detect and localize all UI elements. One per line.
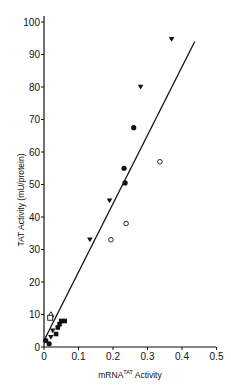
y-tick-label: 60 xyxy=(29,147,41,158)
data-point-open-circle xyxy=(109,237,114,242)
regression-line xyxy=(44,42,195,341)
data-point-filled-circle xyxy=(131,125,136,130)
y-ticks: 0102030405060708090100 xyxy=(23,17,44,353)
x-ticks: 00.10.20.30.40.5 xyxy=(41,347,224,362)
y-axis-title: TAT Activity (mU/protein) xyxy=(16,153,26,246)
y-tick-label: 0 xyxy=(34,342,40,353)
data-point-filled-triangle xyxy=(169,37,175,42)
data-point-filled-circle xyxy=(121,166,126,171)
x-tick-label: 0.4 xyxy=(175,351,189,362)
data-point-filled-triangle xyxy=(48,335,54,340)
x-axis-title: mRNATAT Activity xyxy=(98,369,162,380)
data-point-filled-triangle xyxy=(87,238,93,243)
data-point-filled-square xyxy=(54,332,59,337)
data-point-filled-square xyxy=(62,319,67,324)
y-tick-label: 80 xyxy=(29,82,41,93)
scatter-chart: 0102030405060708090100 00.10.20.30.40.5 … xyxy=(0,0,231,388)
y-tick-label: 50 xyxy=(29,179,41,190)
data-point-filled-triangle xyxy=(107,199,113,204)
data-point-open-square xyxy=(48,315,53,320)
data-point-filled-circle xyxy=(47,341,52,346)
y-tick-label: 90 xyxy=(29,49,41,60)
data-point-open-circle xyxy=(124,221,129,226)
data-point-open-circle xyxy=(158,159,163,164)
y-tick-label: 10 xyxy=(29,309,41,320)
data-point-filled-circle xyxy=(122,180,127,185)
x-tick-label: 0.5 xyxy=(210,351,224,362)
data-points xyxy=(43,37,174,346)
data-point-filled-triangle xyxy=(138,85,144,90)
y-tick-label: 70 xyxy=(29,114,41,125)
data-point-filled-square xyxy=(56,325,61,330)
x-tick-label: 0.1 xyxy=(72,351,86,362)
x-tick-label: 0.2 xyxy=(106,351,120,362)
x-tick-label: 0.3 xyxy=(141,351,155,362)
y-tick-label: 20 xyxy=(29,277,41,288)
y-tick-label: 40 xyxy=(29,212,41,223)
y-tick-label: 30 xyxy=(29,244,41,255)
axes xyxy=(44,16,216,347)
y-tick-label: 100 xyxy=(23,17,40,28)
x-tick-label: 0 xyxy=(41,351,47,362)
